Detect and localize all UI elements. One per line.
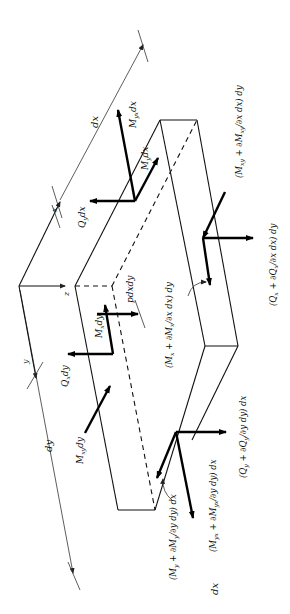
Qx-dy-label: Qxdy bbox=[60, 364, 71, 387]
dx-label-top: dx bbox=[89, 116, 100, 128]
Myx-dx-label: Myxdx bbox=[128, 101, 140, 129]
Mx-dy-label: Mxdy bbox=[94, 314, 105, 339]
My-dx-label: Mydx bbox=[140, 147, 152, 171]
load-arrow: pdxdy bbox=[97, 275, 145, 328]
Mx-plus-label: (Mx + ∂Mx/∂x dx) dy bbox=[164, 282, 175, 368]
x-axis-label: x bbox=[50, 207, 59, 212]
y-axis-label: y bbox=[21, 359, 30, 365]
My-plus-label: (My + ∂My/∂y dy) dx bbox=[168, 494, 180, 580]
Mxy-plus-label: (Mxy + ∂Mxy/∂x dx) dy bbox=[234, 85, 246, 178]
Qy-plus-label: (Qy + ∂Qy/∂y dy) dx bbox=[238, 396, 250, 478]
diagram-svg: pdxdy dx dy x y z dx Myxdx Mydx Qydx Mx bbox=[0, 0, 290, 614]
far-x-face-vectors bbox=[188, 192, 253, 296]
z-axis-label: z bbox=[62, 291, 71, 297]
Myx-plus-label: (Myx + ∂Myx/∂y dy) dx bbox=[208, 459, 220, 552]
Mxy-dy-label: Mxydy bbox=[75, 436, 87, 465]
Qx-plus-label: (Qx + ∂Qx/∂x dx) dy bbox=[268, 224, 279, 306]
Qy-dx-label: Qydx bbox=[77, 206, 89, 228]
labels: dx dy x y z dx Myxdx Mydx Qydx Mxdy Qxdy… bbox=[21, 85, 279, 595]
load-label: pdxdy bbox=[125, 275, 135, 303]
plate-element-diagram: pdxdy dx dy x y z dx Myxdx Mydx Qydx Mx bbox=[0, 0, 290, 614]
dx-label-bottom: dx bbox=[209, 583, 220, 595]
dy-label: dy bbox=[43, 440, 54, 452]
